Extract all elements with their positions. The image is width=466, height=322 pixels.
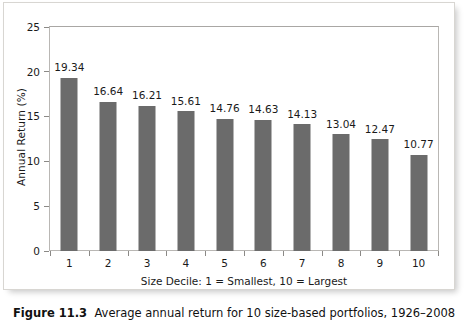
bar-group: 15.61 (166, 27, 205, 251)
x-axis-tick-label: 10 (412, 257, 425, 269)
y-axis-ticks: 0510152025 (4, 26, 49, 251)
x-axis-tick-label: 2 (105, 257, 112, 269)
x-axis-tick-label: 3 (144, 257, 151, 269)
bar (332, 134, 349, 251)
x-axis-tick-mark (166, 251, 167, 256)
x-axis-tick-mark (283, 251, 284, 256)
bar (216, 119, 233, 251)
x-axis-tick-mark (244, 251, 245, 256)
figure-panel: Annual Return (%) 0510152025 19.3416.641… (3, 2, 455, 290)
bar-value-label: 15.61 (171, 96, 201, 107)
figure-caption: Figure 11.3 Average annual return for 10… (13, 306, 458, 320)
x-axis-tick-label: 6 (260, 257, 267, 269)
y-axis-tick-label: 0 (33, 246, 44, 257)
x-axis-title: Size Decile: 1 = Smallest, 10 = Largest (49, 275, 439, 287)
x-axis-tick-label: 4 (182, 257, 189, 269)
bar-group: 10.77 (399, 27, 438, 251)
bar-group: 14.13 (283, 27, 322, 251)
x-axis-tick-label: 1 (66, 257, 73, 269)
x-axis-tick-label: 9 (376, 257, 383, 269)
bar-value-label: 19.34 (54, 62, 84, 73)
bar-group: 12.47 (360, 27, 399, 251)
plot-area: 19.3416.6416.2115.6114.7614.6314.1313.04… (50, 27, 438, 251)
x-axis-tick-mark (128, 251, 129, 256)
bar-group: 16.21 (128, 27, 167, 251)
figure-caption-label: Figure 11.3 (13, 306, 87, 320)
x-axis-tick-mark (205, 251, 206, 256)
x-axis-tick-label: 7 (299, 257, 306, 269)
bar (61, 78, 78, 251)
bar-value-label: 14.13 (287, 109, 317, 120)
bar (138, 106, 155, 251)
bar-value-label: 13.04 (326, 119, 356, 130)
x-axis-tick-mark (322, 251, 323, 256)
bar-group: 19.34 (50, 27, 89, 251)
bar (371, 139, 388, 251)
x-axis-tick-mark (399, 251, 400, 256)
bar-group: 14.63 (244, 27, 283, 251)
bar-value-label: 10.77 (404, 139, 434, 150)
y-axis-tick-label: 15 (27, 111, 44, 122)
bar-value-label: 14.76 (210, 103, 240, 114)
bar-value-label: 14.63 (248, 104, 278, 115)
bar-value-label: 16.64 (93, 86, 123, 97)
x-axis-tick-mark (89, 251, 90, 256)
bar (294, 124, 311, 251)
x-axis-tick-label: 5 (221, 257, 228, 269)
x-axis-tick-labels: 12345678910 (49, 257, 439, 273)
y-axis-tick-label: 25 (27, 22, 44, 33)
bar (255, 120, 272, 251)
figure-container: Annual Return (%) 0510152025 19.3416.641… (0, 0, 466, 322)
x-axis-tick-mark (360, 251, 361, 256)
bar-chart: Annual Return (%) 0510152025 19.3416.641… (4, 3, 456, 291)
bar-group: 16.64 (89, 27, 128, 251)
x-axis-ticks (49, 251, 439, 256)
figure-caption-text: Average annual return for 10 size-based … (94, 306, 455, 320)
y-axis-tick-label: 5 (33, 201, 44, 212)
x-axis-tick-label: 8 (338, 257, 345, 269)
bar-value-label: 12.47 (365, 124, 395, 135)
x-axis-tick-mark (438, 251, 439, 256)
x-axis-tick-mark (50, 251, 51, 256)
y-axis-tick-label: 10 (27, 156, 44, 167)
bar-value-label: 16.21 (132, 90, 162, 101)
bar (177, 111, 194, 251)
bar-group: 13.04 (322, 27, 361, 251)
bar (410, 155, 427, 251)
bar-group: 14.76 (205, 27, 244, 251)
bar (100, 102, 117, 251)
y-axis-tick-label: 20 (27, 67, 44, 78)
